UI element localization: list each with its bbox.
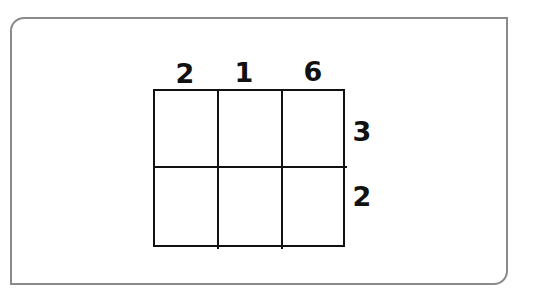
grid-cell-r2c3 [283,168,347,249]
row-label-2: 2 [353,183,372,210]
column-label-3: 6 [304,58,323,85]
grid-cell-r1c1 [155,91,219,168]
multiplication-grid [153,89,345,247]
grid-cell-r2c2 [219,168,283,249]
column-label-2: 1 [235,59,254,86]
grid-cell-r2c1 [155,168,219,249]
column-label-1: 2 [176,60,195,87]
grid-cell-r1c3 [283,91,347,168]
grid-cell-r1c2 [219,91,283,168]
row-label-1: 3 [353,118,372,145]
